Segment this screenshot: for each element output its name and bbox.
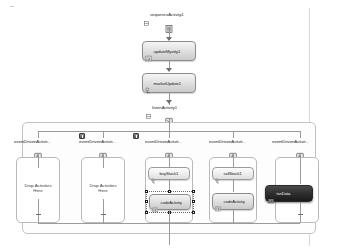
drop-text-line1: Drop Activities [89, 183, 116, 188]
branch-label-2: eventDrivenActivit... [79, 139, 116, 144]
sequence-activity-icon [144, 12, 149, 17]
resize-handle-n[interactable] [168, 190, 171, 193]
branch-spine-lower-2 [103, 199, 104, 223]
branch-spine-lower-1 [38, 199, 39, 223]
branch-spine-lower-5 [300, 202, 301, 223]
branch-endtick-2 [101, 214, 106, 215]
drop-text-line2: Here [98, 188, 107, 193]
resize-handle-ne[interactable] [192, 190, 195, 193]
svg-text:C#: C# [216, 207, 220, 211]
branch-spine-lower-3 [169, 210, 170, 223]
warning-badge-icon-2[interactable] [133, 133, 139, 139]
drop-activities-here-1[interactable]: Drop Activities Here [8, 183, 68, 194]
sequence-root-icon[interactable] [165, 19, 173, 27]
activity-box-tsn-data[interactable]: C# tsnData [265, 185, 313, 202]
connector-sell-to-code2 [233, 180, 234, 192]
branch-spine-5 [300, 154, 301, 184]
activity-label-code-activity-3: codeActivity [161, 200, 182, 205]
event-driven-activity-icon-4[interactable] [229, 146, 237, 154]
handle-external-event-icon [215, 170, 222, 177]
event-driven-activity-icon-1[interactable] [34, 146, 42, 154]
activity-label-buy-stock: buyStock1 [160, 171, 179, 176]
sequence-activity-label: sequenceActivity1 [150, 12, 184, 17]
listen-activity-label: listenActivity1 [152, 105, 177, 110]
resize-handle-w[interactable] [145, 200, 148, 203]
workflow-designer-canvas[interactable]: sequenceActivity1 C# updateMystity1 [0, 0, 338, 251]
branch-label-1: eventDrivenActivit... [14, 139, 51, 144]
branch-endtick-5 [298, 214, 303, 215]
event-driven-activity-icon-3[interactable] [165, 146, 173, 154]
activity-box-market-update[interactable]: marketUpdate1 [142, 73, 196, 93]
event-driven-activity-icon-5[interactable] [296, 146, 304, 154]
activity-box-buy-stock[interactable]: buyStock1 [148, 167, 190, 180]
resize-handle-e[interactable] [192, 200, 195, 203]
listen-stem [169, 119, 170, 131]
activity-box-update[interactable]: C# updateMystity1 [142, 41, 196, 61]
branch-label-5: eventDrivenActivit... [272, 139, 309, 144]
code-activity-icon: C# [215, 198, 222, 205]
canvas-corner-mark [10, 6, 14, 7]
activity-box-sell-stock[interactable]: sellStock1 [212, 167, 254, 180]
arrow-market-to-listen [166, 100, 172, 104]
handle-external-event-icon [151, 170, 158, 177]
resize-handle-nw[interactable] [145, 190, 148, 193]
branch-drop-2 [103, 131, 104, 138]
activity-label-update: updateMystity1 [154, 49, 181, 54]
branch-endtick-1 [36, 214, 41, 215]
handle-external-event-icon [145, 80, 152, 87]
drop-text-line2: Here [33, 188, 42, 193]
code-activity-icon: C# [152, 199, 159, 206]
code-activity-icon: C# [145, 48, 152, 55]
activity-box-code-activity-2[interactable]: C# codeActivity [212, 193, 254, 210]
code-activity-icon: C# [268, 190, 275, 197]
branch-drop-4 [233, 131, 234, 138]
activity-box-code-activity-3[interactable]: C# codeActivity [149, 194, 191, 210]
activity-label-code-activity-2: codeActivity [224, 199, 245, 204]
branch-drop-5 [300, 131, 301, 138]
activity-label-market-update: marketUpdate1 [154, 81, 181, 86]
listen-activity-icon[interactable] [165, 111, 173, 119]
drop-text-line1: Drop Activities [24, 183, 51, 188]
branch-spine-3 [169, 154, 170, 168]
event-driven-activity-icon-2[interactable] [99, 146, 107, 154]
branch-drop-1 [38, 131, 39, 138]
arrow-update-to-market [166, 68, 172, 72]
activity-label-tsn-data: tsnData [277, 191, 291, 196]
activity-label-sell-stock: sellStock1 [224, 171, 242, 176]
resize-handle-sw[interactable] [145, 211, 148, 214]
branch-spine-4 [233, 154, 234, 168]
resize-handle-se[interactable] [192, 211, 195, 214]
listen-exit-stem [169, 223, 170, 245]
branch-spine-lower-4 [233, 210, 234, 223]
branch-label-3: eventDrivenActivit... [145, 139, 182, 144]
branch-spine-2 [103, 154, 104, 168]
branch-drop-3 [169, 131, 170, 138]
svg-text:C#: C# [153, 208, 157, 212]
listen-activity-type-icon [146, 105, 151, 110]
branch-label-4: eventDrivenActivit... [209, 139, 246, 144]
branch-spine-1 [38, 154, 39, 168]
svg-text:C#: C# [269, 199, 273, 203]
drop-activities-here-2[interactable]: Drop Activities Here [73, 183, 133, 194]
